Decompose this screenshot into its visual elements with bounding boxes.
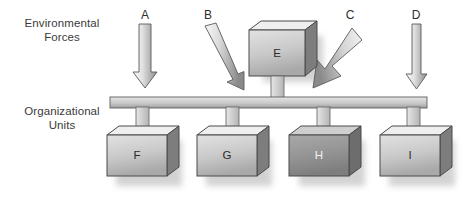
- arrow-label-d: D: [407, 9, 425, 21]
- box-label-g: G: [216, 149, 238, 161]
- arrow-label-a: A: [136, 9, 154, 21]
- arrow-label-c: C: [341, 9, 359, 21]
- box-label-h: H: [308, 149, 330, 161]
- arrow-d: [406, 24, 427, 89]
- box-label-i: I: [399, 149, 421, 161]
- box-label-e: E: [266, 47, 288, 59]
- arrow-b: [205, 23, 244, 90]
- box-label-f: F: [126, 149, 148, 161]
- row-label-environmental-forces: Environmental Forces: [6, 16, 118, 44]
- diagram-canvas: Environmental Forces Organizational Unit…: [0, 0, 469, 198]
- connector-e: [271, 76, 284, 100]
- arrow-label-b: B: [199, 9, 217, 21]
- arrow-a: [133, 24, 157, 88]
- row-label-organizational-units: Organizational Units: [6, 104, 118, 132]
